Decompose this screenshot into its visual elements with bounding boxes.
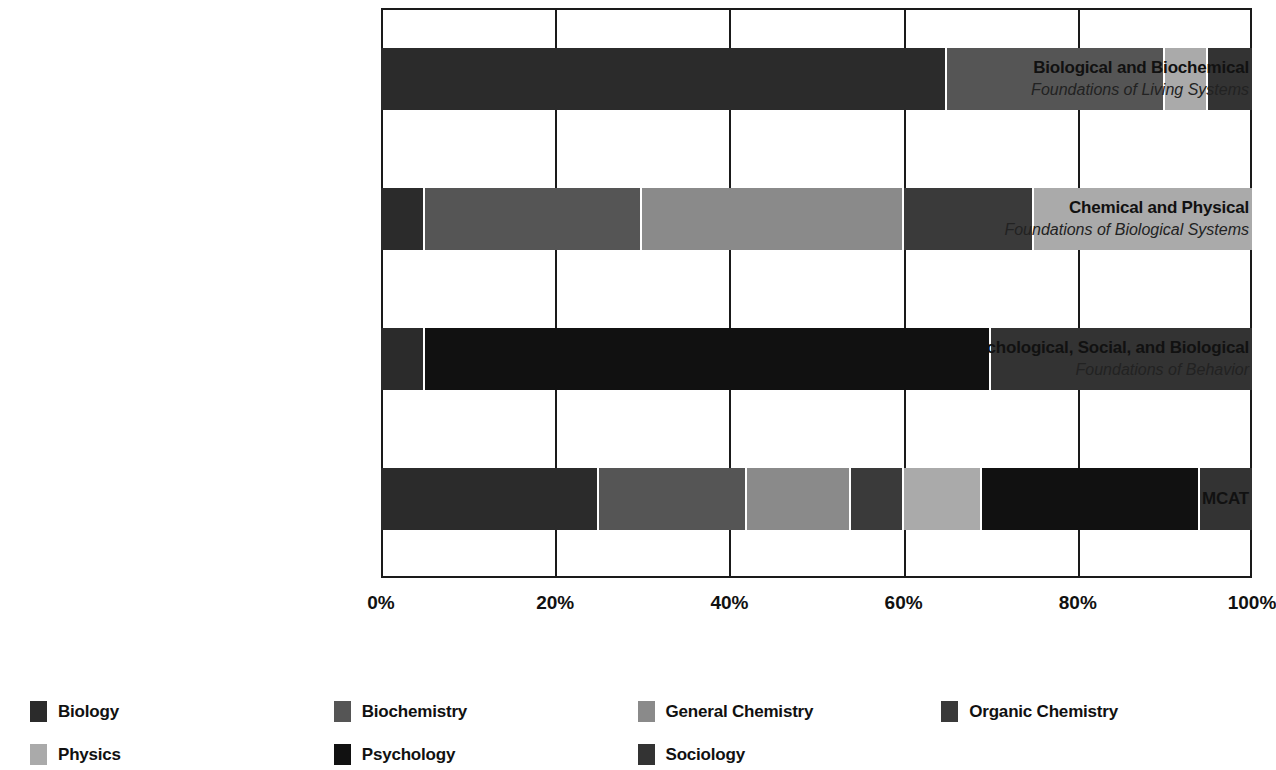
legend-item[interactable]: Physics (30, 733, 334, 770)
category-label: Psychological, Social, and BiologicalFou… (889, 337, 1269, 380)
bar-segment-biology[interactable] (381, 48, 947, 110)
legend-swatch-icon (30, 701, 47, 722)
legend-label: Sociology (666, 745, 745, 765)
bar-segment-biology[interactable] (381, 328, 425, 390)
legend-item[interactable]: Psychology (334, 733, 638, 770)
legend-item[interactable]: Biochemistry (334, 690, 638, 733)
legend-label: Psychology (362, 745, 455, 765)
legend-swatch-icon (638, 744, 655, 765)
legend-swatch-icon (941, 701, 958, 722)
legend-item[interactable]: Organic Chemistry (941, 690, 1245, 733)
x-tick-label: 40% (710, 592, 748, 614)
category-title: MCAT (889, 488, 1249, 510)
x-tick-label: 80% (1059, 592, 1097, 614)
bar-segment-biology[interactable] (381, 188, 425, 250)
legend-label: Biology (58, 702, 119, 722)
x-axis-line (381, 576, 1252, 578)
x-tick-label: 60% (885, 592, 923, 614)
legend-item[interactable]: Biology (30, 690, 334, 733)
category-subtitle: Foundations of Living Systems (889, 79, 1249, 100)
x-tick-label: 20% (536, 592, 574, 614)
category-title: Biological and Biochemical (889, 57, 1249, 79)
legend-swatch-icon (638, 701, 655, 722)
legend-swatch-icon (334, 701, 351, 722)
legend-label: General Chemistry (666, 702, 814, 722)
bar-segment-biochemistry[interactable] (425, 188, 643, 250)
category-label: Chemical and PhysicalFoundations of Biol… (889, 197, 1269, 240)
bar-segment-general-chemistry[interactable] (642, 188, 903, 250)
legend-swatch-icon (334, 744, 351, 765)
x-tick-label: 0% (367, 592, 394, 614)
bar-segment-general-chemistry[interactable] (747, 468, 852, 530)
category-label: Biological and BiochemicalFoundations of… (889, 57, 1269, 100)
category-label: MCAT (889, 488, 1269, 510)
legend-swatch-icon (30, 744, 47, 765)
legend-item[interactable]: Sociology (638, 733, 942, 770)
legend-label: Biochemistry (362, 702, 467, 722)
chart-legend: BiologyBiochemistryGeneral ChemistryOrga… (30, 690, 1245, 770)
bar-segment-biology[interactable] (381, 468, 599, 530)
plot-top-border (381, 8, 1252, 10)
legend-label: Organic Chemistry (969, 702, 1118, 722)
bar-segment-biochemistry[interactable] (599, 468, 747, 530)
category-subtitle: Foundations of Behavior (889, 359, 1249, 380)
category-title: Psychological, Social, and Biological (889, 337, 1249, 359)
legend-label: Physics (58, 745, 121, 765)
legend-item[interactable]: General Chemistry (638, 690, 942, 733)
x-tick-label: 100% (1228, 592, 1276, 614)
category-title: Chemical and Physical (889, 197, 1249, 219)
category-subtitle: Foundations of Biological Systems (889, 219, 1249, 240)
